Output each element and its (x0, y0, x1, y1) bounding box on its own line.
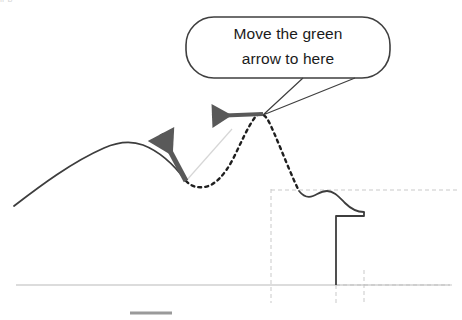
diagram-canvas-root: jr p (0, 0, 462, 320)
instruction-callout[interactable] (186, 17, 390, 115)
target-arrow-horizontal[interactable] (212, 114, 263, 116)
dashed-profile-valley-peak (186, 114, 299, 191)
callout-bubble-body[interactable] (186, 17, 390, 78)
construction-guides (271, 189, 458, 303)
solid-profile-wave-right (299, 191, 364, 212)
callout-tail-pointer (263, 78, 355, 115)
solid-profile-left (14, 142, 186, 206)
ledge-and-vertical-drop (336, 212, 364, 285)
target-arrow-shaft[interactable] (212, 114, 263, 116)
engineering-profile-diagram (0, 0, 462, 320)
